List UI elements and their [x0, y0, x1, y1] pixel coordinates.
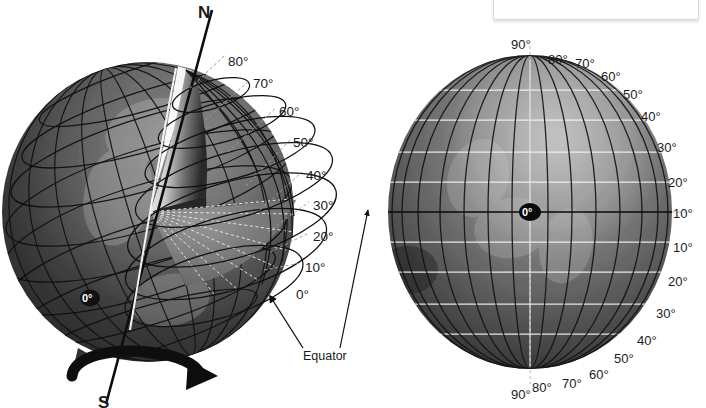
- right-latitude-north-label-80deg: 80°: [548, 53, 568, 66]
- right-latitude-south-label-90deg: 90°: [511, 388, 531, 401]
- globes-illustration: [0, 0, 706, 408]
- right-latitude-south-label-30deg: 30°: [656, 307, 676, 320]
- right-latitude-south-label-40deg: 40°: [637, 334, 657, 347]
- right-latitude-south-label-60deg: 60°: [589, 368, 609, 381]
- right-globe-center-label: 0°: [522, 207, 533, 218]
- left-latitude-label-40deg: 40°: [306, 169, 326, 183]
- left-latitude-label-70deg: 70°: [253, 77, 273, 91]
- latitude-globes-figure: various angles of latitude on these glob…: [0, 0, 706, 408]
- right-latitude-south-label-70deg: 70°: [562, 377, 582, 390]
- right-latitude-south-label-80deg: 80°: [532, 381, 552, 394]
- left-latitude-label-10deg: 10°: [305, 261, 325, 275]
- right-latitude-north-label-60deg: 60°: [601, 70, 621, 83]
- equator-pointer-right: [340, 210, 368, 348]
- south-pole-label: S: [98, 394, 109, 408]
- north-pole-label: N: [198, 4, 210, 21]
- right-latitude-north-label-90deg: 90°: [511, 38, 531, 51]
- right-latitude-north-label-70deg: 70°: [575, 57, 595, 70]
- left-latitude-label-0deg: 0°: [296, 288, 309, 302]
- left-latitude-label-60deg: 60°: [279, 105, 299, 119]
- right-latitude-north-label-20deg: 20°: [668, 176, 688, 189]
- right-latitude-south-label-10deg: 10°: [673, 241, 693, 254]
- left-latitude-label-20deg: 20°: [313, 230, 333, 244]
- rotation-arrow: [72, 348, 218, 390]
- right-latitude-north-label-30deg: 30°: [657, 141, 677, 154]
- right-latitude-north-label-40deg: 40°: [641, 110, 661, 123]
- left-latitude-label-80deg: 80°: [228, 55, 248, 69]
- left-globe-center-label: 0°: [82, 293, 93, 304]
- right-latitude-south-label-50deg: 50°: [614, 352, 634, 365]
- left-latitude-label-50deg: 50°: [293, 136, 313, 150]
- caption-callout: various angles of latitude on these glob…: [493, 0, 699, 20]
- left-latitude-label-30deg: 30°: [313, 199, 333, 213]
- equator-pointer-left: [270, 296, 303, 348]
- right-latitude-north-label-10deg: 10°: [673, 207, 693, 220]
- right-latitude-south-label-20deg: 20°: [668, 275, 688, 288]
- right-latitude-north-label-50deg: 50°: [623, 88, 643, 101]
- equator-label: Equator: [303, 350, 347, 363]
